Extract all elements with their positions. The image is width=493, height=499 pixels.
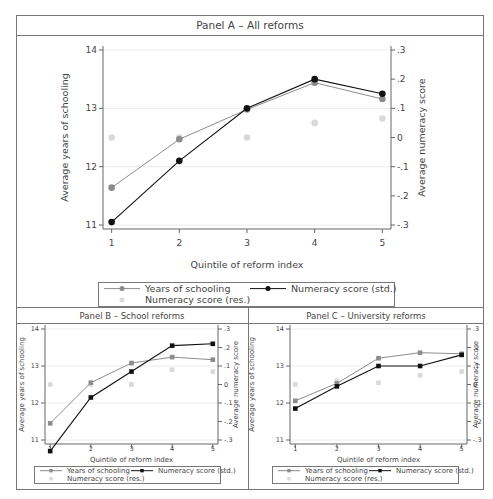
y-tick-label: 11 bbox=[276, 436, 284, 444]
legend-label-schooling: Years of schooling bbox=[304, 467, 368, 475]
x-tick-label: 1 bbox=[109, 238, 115, 248]
data-point-schooling bbox=[89, 380, 94, 385]
y2-tick-label: .3 bbox=[224, 325, 230, 333]
x-tick-label: 1 bbox=[293, 445, 297, 453]
figure: Panel A – All reforms Panel B – School r… bbox=[0, 0, 493, 499]
legend-marker-numeracy-res bbox=[287, 477, 290, 480]
legend-marker-numeracy-res bbox=[49, 477, 52, 480]
data-point-numeracy-std bbox=[129, 369, 134, 374]
data-point-numeracy-res bbox=[244, 134, 251, 141]
legend-label-numeracy-std: Numeracy score (std.) bbox=[291, 283, 397, 294]
data-point-numeracy-res bbox=[170, 367, 175, 372]
data-point-numeracy-std bbox=[379, 90, 386, 97]
x-tick-label: 5 bbox=[460, 445, 464, 453]
y2-tick-label: -.3 bbox=[397, 220, 409, 230]
data-point-schooling bbox=[211, 357, 216, 362]
y-tick-label: 12 bbox=[276, 399, 284, 407]
data-point-numeracy-std bbox=[176, 158, 183, 165]
legend-marker-numeracy-std bbox=[378, 469, 381, 472]
y-tick-label: 13 bbox=[31, 362, 39, 370]
data-point-schooling bbox=[129, 361, 134, 366]
x-tick-label: 5 bbox=[211, 445, 215, 453]
y-tick-label: 11 bbox=[86, 220, 97, 230]
x-axis-label: Quintile of reform index bbox=[337, 456, 420, 464]
data-point-numeracy-res bbox=[418, 373, 423, 378]
x-tick-label: 4 bbox=[170, 445, 174, 453]
data-point-schooling bbox=[176, 136, 183, 143]
y-axis-label: Average years of schooling bbox=[18, 337, 26, 432]
data-point-numeracy-std bbox=[48, 449, 53, 454]
data-point-numeracy-res bbox=[211, 369, 216, 374]
data-point-numeracy-res bbox=[376, 380, 381, 385]
y2-tick-label: .3 bbox=[473, 325, 479, 333]
legend-label-numeracy-res: Numeracy score (res.) bbox=[305, 475, 383, 483]
x-tick-label: 3 bbox=[376, 445, 380, 453]
legend-label-schooling: Years of schooling bbox=[66, 467, 130, 475]
data-point-numeracy-res bbox=[293, 382, 298, 387]
data-point-numeracy-std bbox=[376, 364, 381, 369]
legend-marker-schooling bbox=[49, 469, 52, 472]
y2-tick-label: -.3 bbox=[224, 436, 233, 444]
series-line-numeracy-std bbox=[50, 344, 213, 451]
y2-tick-label: 0 bbox=[397, 133, 403, 143]
data-point-numeracy-std bbox=[211, 342, 216, 347]
y2-tick-label: -.1 bbox=[397, 162, 409, 172]
y-tick-label: 13 bbox=[276, 362, 284, 370]
y-tick-label: 12 bbox=[86, 162, 97, 172]
y-tick-label: 13 bbox=[86, 103, 97, 113]
y-axis-label: Average years of schooling bbox=[248, 337, 256, 432]
legend-label-schooling: Years of schooling bbox=[144, 283, 230, 294]
legend-label-numeracy-std: Numeracy score (std.) bbox=[396, 467, 474, 475]
x-tick-label: 2 bbox=[89, 445, 93, 453]
x-tick-label: 2 bbox=[176, 238, 182, 248]
y-tick-label: 11 bbox=[31, 436, 39, 444]
data-point-numeracy-std bbox=[459, 353, 464, 358]
y2-tick-label: -.2 bbox=[397, 191, 409, 201]
legend-marker-numeracy-std bbox=[266, 286, 271, 291]
y-tick-label: 14 bbox=[86, 45, 98, 55]
x-tick-label: 3 bbox=[129, 445, 133, 453]
data-point-schooling bbox=[418, 350, 423, 355]
panel-c-plot: 11121314-.3-.2-.10.1.2.312345Quintile of… bbox=[248, 325, 482, 484]
data-point-schooling bbox=[293, 398, 298, 403]
legend-label-numeracy-res: Numeracy score (res.) bbox=[67, 475, 145, 483]
data-point-numeracy-res bbox=[108, 134, 115, 141]
x-axis-label: Quintile of reform index bbox=[90, 456, 173, 464]
x-tick-label: 4 bbox=[312, 238, 318, 248]
data-point-numeracy-std bbox=[244, 105, 251, 112]
legend-label-numeracy-std: Numeracy score (std.) bbox=[158, 467, 236, 475]
data-point-numeracy-res bbox=[459, 369, 464, 374]
y2-tick-label: .2 bbox=[397, 74, 406, 84]
x-tick-label: 5 bbox=[379, 238, 385, 248]
panel-a-plot: 11121314-.3-.2-.10.1.2.312345Quintile of… bbox=[59, 45, 427, 306]
y-tick-label: 14 bbox=[276, 325, 284, 333]
data-point-numeracy-std bbox=[170, 343, 175, 348]
panel-b-title: Panel B – School reforms bbox=[80, 311, 185, 321]
data-point-numeracy-std bbox=[335, 384, 340, 389]
x-tick-label: 3 bbox=[244, 238, 250, 248]
x-tick-label: 4 bbox=[418, 445, 422, 453]
x-axis-label: Quintile of reform index bbox=[191, 259, 304, 270]
legend-marker-numeracy-std bbox=[140, 469, 143, 472]
y-tick-label: 12 bbox=[31, 399, 39, 407]
data-point-schooling bbox=[108, 184, 115, 191]
y2-tick-label: -.3 bbox=[473, 436, 482, 444]
data-point-numeracy-std bbox=[89, 395, 94, 400]
y2-axis-label: Average numeracy score bbox=[472, 341, 480, 428]
y2-tick-label: .1 bbox=[397, 103, 406, 113]
data-point-numeracy-res bbox=[129, 382, 134, 387]
legend-label-numeracy-res: Numeracy score (res.) bbox=[145, 294, 250, 305]
legend-marker-schooling bbox=[287, 469, 290, 472]
y-tick-label: 14 bbox=[31, 325, 39, 333]
data-point-numeracy-res bbox=[311, 120, 318, 127]
data-point-numeracy-res bbox=[379, 115, 386, 122]
x-tick-label: 2 bbox=[335, 445, 339, 453]
y-axis-label: Average years of schooling bbox=[59, 73, 70, 202]
panel-c-title: Panel C – University reforms bbox=[306, 311, 426, 321]
data-point-schooling bbox=[170, 355, 175, 360]
legend-marker-numeracy-res bbox=[120, 298, 125, 303]
y2-tick-label: .3 bbox=[397, 45, 406, 55]
y2-axis-label: Average numeracy score bbox=[232, 341, 240, 428]
data-point-schooling bbox=[376, 356, 381, 361]
series-line-schooling bbox=[50, 357, 213, 423]
